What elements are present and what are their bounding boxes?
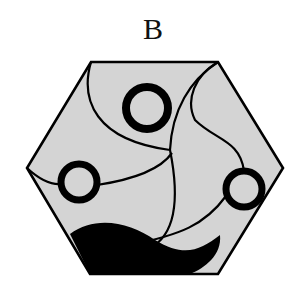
left-ring	[61, 164, 97, 200]
hexagon-figure	[0, 0, 306, 293]
right-ring	[226, 171, 262, 207]
top-ring	[126, 87, 168, 129]
